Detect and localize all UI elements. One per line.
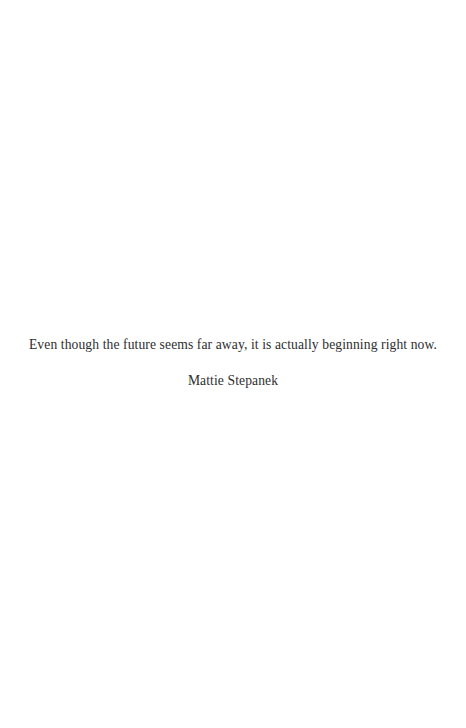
quote-author: Mattie Stepanek	[0, 373, 466, 389]
quote-block: Even though the future seems far away, i…	[0, 337, 466, 389]
quote-page: Even though the future seems far away, i…	[0, 0, 466, 728]
quote-text: Even though the future seems far away, i…	[0, 337, 466, 353]
